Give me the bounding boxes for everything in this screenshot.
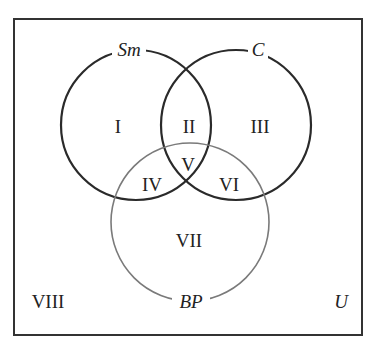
- region-label-vii: VII: [176, 230, 202, 251]
- region-label-v: V: [181, 154, 195, 175]
- set-label-c: C: [252, 39, 265, 60]
- set-label-sm: Sm: [117, 39, 140, 60]
- region-label-iv: IV: [142, 174, 162, 195]
- region-label-ii: II: [183, 116, 196, 137]
- universe-label: U: [334, 291, 349, 312]
- set-label-bp: BP: [179, 291, 203, 312]
- region-label-iii: III: [251, 116, 270, 137]
- region-label-i: I: [115, 116, 121, 137]
- region-label-vi: VI: [219, 174, 239, 195]
- region-label-viii: VIII: [32, 291, 65, 312]
- venn-diagram: Sm C BP U I II III IV V VI VII VIII: [0, 0, 372, 345]
